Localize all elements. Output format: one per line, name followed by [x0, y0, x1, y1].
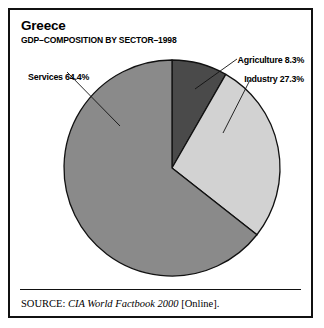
pie-label-industry: Industry 27.3%: [244, 74, 304, 84]
pie-chart-plot: Services 64.4% Agriculture 8.3% Industry…: [10, 10, 311, 316]
pie-slice-group: [64, 60, 280, 276]
chart-figure: Greece GDP–COMPOSITION BY SECTOR–1998 Se…: [8, 8, 313, 318]
source-label: SOURCE:: [21, 298, 65, 309]
source-citation: SOURCE: CIA World Factbook 2000 [Online]…: [21, 298, 219, 309]
source-work-title: CIA World Factbook 2000: [68, 298, 179, 309]
source-medium: [Online].: [181, 298, 219, 309]
source-divider: [20, 289, 301, 290]
pie-label-services: Services 64.4%: [28, 72, 89, 82]
pie-label-agriculture: Agriculture 8.3%: [237, 55, 304, 65]
